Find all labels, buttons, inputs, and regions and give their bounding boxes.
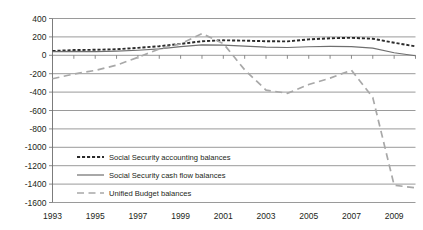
legend-label: Social Security cash flow balances [109, 171, 226, 180]
chart-legend: Social Security accounting balancesSocia… [77, 153, 231, 198]
legend-label: Social Security accounting balances [109, 153, 231, 162]
legend-label: Unified Budget balances [109, 189, 192, 198]
x-tick-label: 1993 [43, 211, 62, 221]
y-tick-label: -400 [29, 87, 46, 97]
y-tick-label: 200 [32, 32, 46, 42]
x-tick-label: 1999 [171, 211, 190, 221]
line-chart: 4002000-200-400-600-800-1000-1200-1400-1… [0, 0, 423, 230]
x-tick-label: 2007 [342, 211, 361, 221]
y-tick-label: -1000 [25, 142, 47, 152]
series-line [53, 38, 416, 51]
series-line [53, 45, 416, 56]
y-axis-tick-labels: 4002000-200-400-600-800-1000-1200-1400-1… [25, 14, 47, 208]
chart-container: 4002000-200-400-600-800-1000-1200-1400-1… [0, 0, 423, 230]
y-tick-label: -1200 [25, 161, 47, 171]
y-tick-label: 0 [42, 50, 47, 60]
y-tick-label: -800 [29, 124, 46, 134]
x-tick-label: 1995 [86, 211, 105, 221]
y-tick-label: -1400 [25, 179, 47, 189]
x-tick-label: 1997 [128, 211, 147, 221]
x-tick-label: 2001 [214, 211, 233, 221]
y-tick-marks [49, 19, 53, 203]
x-tick-label: 2009 [385, 211, 404, 221]
x-tick-label: 2003 [257, 211, 276, 221]
x-tick-label: 2005 [299, 211, 318, 221]
y-tick-label: -1600 [25, 198, 47, 208]
y-tick-label: 400 [32, 14, 46, 24]
x-axis-tick-labels: 199319951997199920012003200520072009 [43, 211, 404, 221]
y-tick-label: -600 [29, 106, 46, 116]
y-tick-label: -200 [29, 69, 46, 79]
